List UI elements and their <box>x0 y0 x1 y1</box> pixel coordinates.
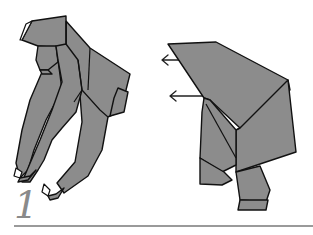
divider-rule <box>14 225 313 227</box>
finished-gorilla-figure <box>14 16 130 200</box>
diagram-canvas: 1 <box>0 0 313 235</box>
arrow-left-icon <box>170 91 203 101</box>
partial-fold-figure <box>168 42 296 210</box>
step-number: 1 <box>14 186 38 224</box>
